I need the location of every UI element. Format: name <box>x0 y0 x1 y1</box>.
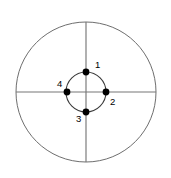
point-label-1: 1 <box>95 59 100 70</box>
point-dot-3 <box>83 109 90 116</box>
point-dot-4 <box>64 89 71 96</box>
point-dot-1 <box>83 69 90 76</box>
circle-diagram-figure: 1 2 3 4 <box>0 0 171 178</box>
diagram-canvas: 1 2 3 4 <box>0 0 171 178</box>
point-label-3: 3 <box>76 113 81 124</box>
point-label-4: 4 <box>57 78 62 89</box>
point-label-2: 2 <box>110 96 115 107</box>
point-dot-2 <box>103 89 110 96</box>
